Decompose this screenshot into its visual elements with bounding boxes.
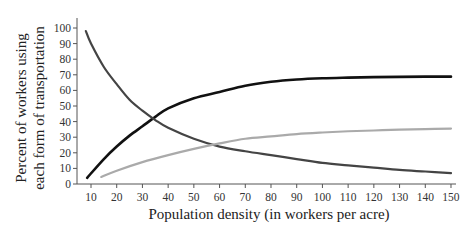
x-tick-label: 140: [417, 191, 435, 203]
x-tick-label: 70: [240, 191, 252, 203]
y-tick-label: 30: [60, 131, 72, 143]
line-chart: 0102030405060708090100 10203040506070809…: [0, 0, 465, 232]
x-tick-label: 20: [111, 191, 123, 203]
x-tick-label: 40: [162, 191, 174, 203]
x-tick-label: 30: [137, 191, 149, 203]
x-tick-label: 50: [188, 191, 200, 203]
y-tick-label: 10: [60, 162, 72, 174]
x-tick-label: 100: [314, 191, 332, 203]
x-axis-ticks: 102030405060708090100110120130140150: [85, 184, 460, 203]
data-series: [86, 31, 451, 178]
y-tick-label: 60: [60, 84, 72, 96]
x-tick-label: 130: [391, 191, 409, 203]
x-tick-label: 60: [214, 191, 226, 203]
x-tick-label: 120: [365, 191, 383, 203]
y-tick-label: 0: [65, 178, 71, 190]
y-axis-title-line2: each form of transportation: [31, 26, 47, 190]
y-tick-label: 20: [60, 147, 72, 159]
series-line-2: [86, 31, 451, 173]
y-tick-label: 90: [60, 38, 72, 50]
y-tick-label: 80: [60, 53, 72, 65]
y-axis-title-line1: Percent of workers using: [13, 33, 29, 183]
x-axis-title: Population density (in workers per acre): [148, 206, 389, 223]
x-tick-label: 150: [442, 191, 460, 203]
axes: [77, 18, 456, 184]
y-tick-label: 70: [60, 69, 72, 81]
y-axis-ticks: 0102030405060708090100: [54, 22, 77, 190]
y-tick-label: 40: [60, 116, 72, 128]
x-tick-label: 10: [85, 191, 97, 203]
y-tick-label: 100: [54, 22, 72, 34]
x-tick-label: 110: [340, 191, 357, 203]
x-tick-label: 80: [265, 191, 277, 203]
y-tick-label: 50: [60, 100, 72, 112]
x-tick-label: 90: [291, 191, 303, 203]
